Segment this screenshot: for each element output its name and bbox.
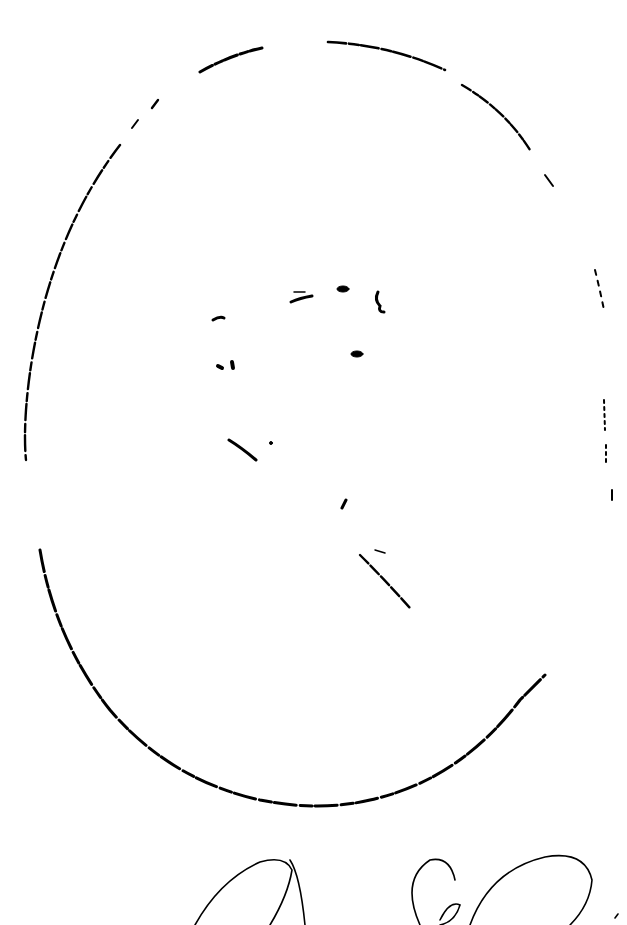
facial-features — [213, 286, 410, 608]
oval-frame — [25, 42, 612, 806]
signature — [195, 856, 618, 925]
portrait-engraving — [0, 0, 627, 925]
